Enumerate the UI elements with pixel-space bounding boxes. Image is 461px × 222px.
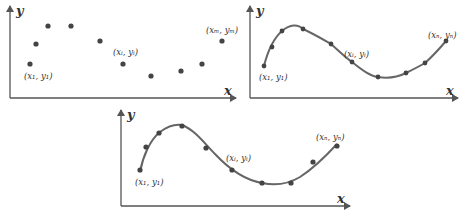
label-middle-point: (xᵢ, yᵢ): [113, 47, 138, 57]
label-last-point: (xₙ, yₙ): [428, 30, 457, 40]
y-axis-label: y: [255, 3, 265, 18]
y-axis-label: y: [15, 3, 25, 18]
panel-fitting: y x (x₁, y₁) (xᵢ, yᵢ) (xₙ, yₙ): [110, 105, 360, 222]
label-first-point: (x₁, y₁): [259, 72, 287, 82]
label-middle-point: (xᵢ, yᵢ): [226, 153, 251, 163]
label-last-point: (xₘ, yₘ): [206, 25, 238, 35]
y-axis-label: y: [126, 107, 136, 122]
x-axis-label: x: [336, 191, 345, 206]
x-axis-label: x: [223, 83, 232, 98]
x-axis-label: x: [445, 83, 454, 98]
label-first-point: (x₁, y₁): [135, 177, 163, 187]
label-first-point: (x₁, y₁): [24, 71, 52, 81]
label-middle-point: (xᵢ, yᵢ): [344, 49, 369, 59]
panel-interpolation: y x (x₁, y₁) (xᵢ, yᵢ) (xₙ, yₙ): [240, 0, 461, 105]
label-last-point: (xₙ, yₙ): [316, 132, 345, 142]
panel-scatter: y x (x₁, y₁) (xᵢ, yᵢ) (xₘ, yₘ): [0, 0, 240, 105]
